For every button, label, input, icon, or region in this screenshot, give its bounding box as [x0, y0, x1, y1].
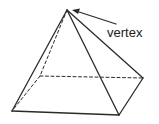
hidden-edge-back-base	[40, 76, 143, 78]
vertex-label: vertex	[107, 26, 142, 39]
hidden-edge-left-base	[12, 76, 40, 111]
hidden-edge-apex-back-left	[40, 10, 67, 76]
vertex-arrow	[76, 11, 116, 24]
arrow-head-icon	[72, 9, 80, 15]
edge-right-base	[119, 78, 143, 115]
edge-apex-front-left	[12, 10, 67, 111]
edge-front-base	[12, 111, 119, 115]
pyramid-diagram	[0, 0, 159, 124]
